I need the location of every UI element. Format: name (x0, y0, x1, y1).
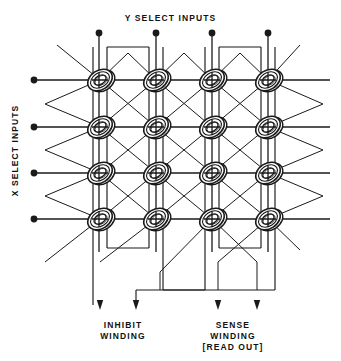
inhibit-winding-label-line2: WINDING (68, 331, 178, 342)
y-input-terminal-3 (209, 30, 216, 37)
sense-winding-label-line1: SENSE (178, 320, 288, 331)
inhibit-winding (93, 47, 275, 305)
y-input-terminal-4 (265, 30, 272, 37)
sense-winding-label: SENSE WINDING [READ OUT] (178, 320, 288, 353)
sense-winding-label-line2: WINDING (178, 331, 288, 342)
inhibit-winding-label-line1: INHIBIT (68, 320, 178, 331)
y-input-terminal-1 (96, 30, 103, 37)
output-arrows (97, 300, 260, 310)
y-input-terminal-2 (153, 30, 160, 37)
x-input-terminal-4 (31, 216, 38, 223)
sense-arrow-2 (254, 300, 260, 310)
x-input-terminal-1 (31, 77, 38, 84)
core-memory-diagram (0, 0, 341, 361)
inhibit-arrow-1 (97, 300, 103, 310)
x-select-inputs-title: X SELECT INPUTS (10, 91, 21, 211)
inhibit-arrow-2 (133, 300, 139, 310)
x-input-terminal-2 (31, 124, 38, 131)
inhibit-winding-label: INHIBIT WINDING (68, 320, 178, 342)
sense-arrow-1 (215, 300, 221, 310)
y-select-inputs-title: Y SELECT INPUTS (0, 13, 341, 24)
x-input-terminal-3 (31, 170, 38, 177)
sense-winding-label-line3: [READ OUT] (178, 342, 288, 353)
